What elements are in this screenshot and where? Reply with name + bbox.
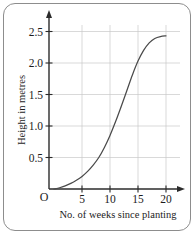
x-tick-label-15: 15 [132, 193, 144, 205]
gridlines-horizontal [49, 32, 180, 158]
y-axis-title: Height in metres [16, 75, 27, 145]
x-tick-label-10: 10 [104, 193, 116, 205]
y-tick-label-1.0: 1.0 [29, 120, 44, 132]
x-tick-label-20: 20 [160, 193, 172, 205]
x-tick-labels: 5 10 15 20 [79, 193, 172, 205]
y-tick-label-1.5: 1.5 [29, 89, 44, 101]
x-axis [49, 186, 185, 193]
y-tick-label-2.0: 2.0 [29, 57, 44, 69]
x-tick-label-5: 5 [79, 193, 85, 205]
x-axis-arrow-icon [177, 186, 185, 192]
y-tick-label-0.5: 0.5 [29, 152, 44, 164]
y-tick-label-2.5: 2.5 [29, 26, 44, 38]
y-axis [46, 10, 53, 189]
y-tick-labels: 2.5 2.0 1.5 1.0 0.5 [29, 26, 44, 164]
gridlines-vertical [82, 25, 166, 189]
x-axis-title: No. of weeks since planting [60, 209, 178, 220]
growth-curve-chart: 2.5 2.0 1.5 1.0 0.5 5 10 15 20 O No. of … [0, 0, 196, 236]
origin-label: O [40, 190, 49, 204]
y-axis-arrow-icon [46, 10, 52, 18]
